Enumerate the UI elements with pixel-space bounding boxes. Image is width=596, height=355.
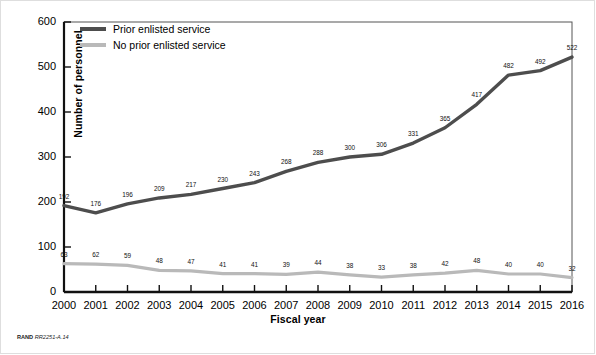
data-label-noprior-2008: 44 <box>303 259 333 266</box>
data-label-noprior-2015: 40 <box>525 261 555 268</box>
data-label-prior-2003: 209 <box>144 185 174 192</box>
data-label-noprior-2016: 32 <box>557 265 587 272</box>
legend-item-prior: Prior enlisted service <box>80 22 226 36</box>
y-tick-label: 400 <box>12 106 56 117</box>
data-label-noprior-2004: 47 <box>176 258 206 265</box>
data-label-noprior-2011: 38 <box>398 262 428 269</box>
y-tick-label: 500 <box>12 61 56 72</box>
data-label-prior-2008: 288 <box>303 149 333 156</box>
data-label-prior-2005: 230 <box>208 176 238 183</box>
data-label-noprior-2006: 41 <box>240 261 270 268</box>
chart-legend: Prior enlisted service No prior enlisted… <box>80 22 226 54</box>
data-label-prior-2009: 300 <box>335 144 365 151</box>
x-tick-label: 2016 <box>552 300 592 311</box>
data-label-noprior-2002: 59 <box>113 252 143 259</box>
data-label-prior-2011: 331 <box>398 130 428 137</box>
data-label-prior-2016: 522 <box>557 44 587 51</box>
data-label-prior-2015: 492 <box>525 58 555 65</box>
data-label-noprior-2009: 38 <box>335 262 365 269</box>
data-label-noprior-2005: 41 <box>208 261 238 268</box>
legend-label-prior: Prior enlisted service <box>113 23 210 35</box>
data-label-prior-2007: 268 <box>271 158 301 165</box>
series-line-prior <box>64 57 572 213</box>
data-label-prior-2006: 243 <box>240 170 270 177</box>
y-tick-label: 600 <box>12 16 56 27</box>
credit-org: RAND <box>17 334 33 340</box>
data-label-prior-2010: 306 <box>367 141 397 148</box>
data-label-prior-2002: 196 <box>113 191 143 198</box>
data-label-noprior-2001: 62 <box>81 251 111 258</box>
data-label-noprior-2013: 48 <box>462 257 492 264</box>
figure-credit: RAND RR2251-A.14 <box>17 334 69 340</box>
data-label-prior-2001: 176 <box>81 200 111 207</box>
credit-number: RR2251-A.14 <box>35 334 69 340</box>
x-axis-title: Fiscal year <box>0 313 596 325</box>
data-label-noprior-2014: 40 <box>494 261 524 268</box>
data-label-prior-2012: 365 <box>430 115 460 122</box>
data-label-prior-2004: 217 <box>176 181 206 188</box>
y-tick-label: 0 <box>12 286 56 297</box>
data-label-noprior-2010: 33 <box>367 264 397 271</box>
data-label-prior-2014: 482 <box>494 62 524 69</box>
data-label-prior-2013: 417 <box>462 91 492 98</box>
legend-item-noprior: No prior enlisted service <box>80 38 226 52</box>
data-label-noprior-2003: 48 <box>144 257 174 264</box>
legend-swatch-icon-prior <box>80 27 106 32</box>
data-label-noprior-2012: 42 <box>430 260 460 267</box>
legend-label-noprior: No prior enlisted service <box>113 39 226 51</box>
data-label-noprior-2000: 63 <box>49 251 79 258</box>
data-label-noprior-2007: 39 <box>271 261 301 268</box>
y-tick-label: 300 <box>12 151 56 162</box>
figure-container: Number of personnel Fiscal year Prior en… <box>0 0 596 355</box>
legend-swatch-icon-noprior <box>80 43 106 48</box>
data-label-prior-2000: 192 <box>49 193 79 200</box>
